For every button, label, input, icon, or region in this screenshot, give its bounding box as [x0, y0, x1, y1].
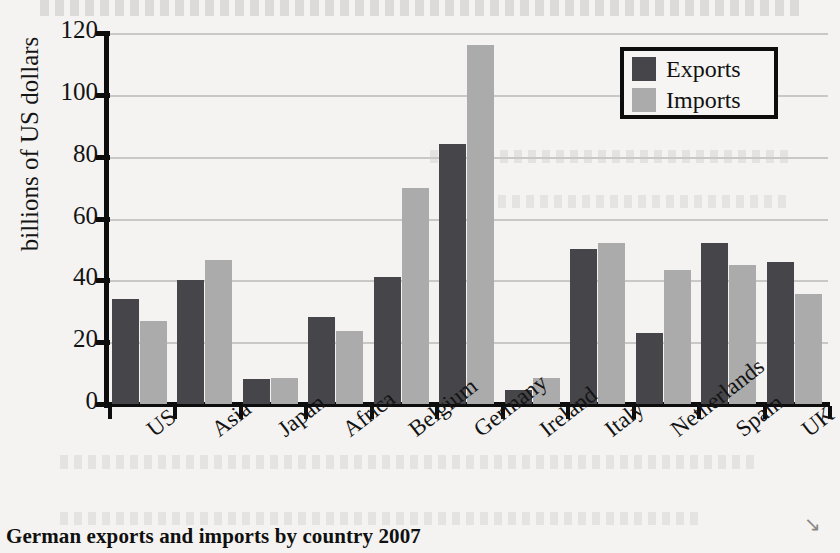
- bar-germany-exports: [439, 144, 466, 404]
- chart-legend: Exports Imports: [620, 47, 778, 119]
- y-tick-label-120: 120: [28, 16, 98, 44]
- y-tick-label-20: 20: [28, 325, 98, 353]
- y-axis-tick-labels: 020406080100120: [10, 0, 98, 420]
- bar-italy-exports: [570, 249, 597, 404]
- bar-japan-imports: [271, 378, 298, 404]
- bar-chart-figure: billions of US dollars 020406080100120 U…: [0, 0, 840, 553]
- bar-japan-exports: [243, 379, 270, 404]
- x-axis-category-labels: USAsiaJapanAfricaBelgiumGermanyIrelandIt…: [0, 404, 840, 514]
- bar-uk-imports: [795, 294, 822, 404]
- legend-label-imports: Imports: [666, 88, 741, 112]
- x-label-us: US: [142, 404, 181, 443]
- bar-us-exports: [112, 299, 139, 404]
- y-tick-label-100: 100: [28, 78, 98, 106]
- bar-belgium-imports: [402, 188, 429, 404]
- y-tick-label-80: 80: [28, 140, 98, 168]
- x-label-uk: UK: [797, 402, 839, 443]
- bar-netherlands-exports: [636, 333, 663, 404]
- legend-swatch-imports-icon: [632, 88, 656, 112]
- bar-asia-exports: [177, 280, 204, 404]
- bar-netherlands-imports: [664, 270, 691, 404]
- legend-item-exports: Exports: [632, 55, 741, 83]
- bar-asia-imports: [205, 260, 232, 404]
- bar-africa-imports: [336, 331, 363, 404]
- bar-germany-imports: [467, 45, 494, 404]
- y-tick-label-40: 40: [28, 263, 98, 291]
- legend-label-exports: Exports: [666, 57, 741, 81]
- figure-caption: German exports and imports by country 20…: [6, 524, 421, 549]
- bar-belgium-exports: [374, 277, 401, 404]
- bar-uk-exports: [767, 262, 794, 404]
- y-tick-label-60: 60: [28, 202, 98, 230]
- legend-item-imports: Imports: [632, 86, 741, 114]
- bar-us-imports: [140, 321, 167, 404]
- bar-italy-imports: [598, 243, 625, 404]
- legend-swatch-exports-icon: [632, 57, 656, 81]
- stray-scan-mark-icon: ↘: [804, 512, 822, 530]
